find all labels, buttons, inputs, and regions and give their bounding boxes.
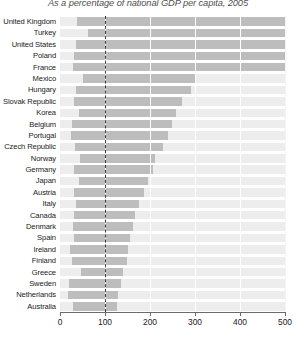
category-label: Australia [0,302,56,311]
bar [88,29,285,37]
category-label: Denmark [0,222,56,231]
x-tick-label: 0 [58,317,63,327]
x-tick-label: 300 [188,317,202,327]
bar [74,234,130,242]
bar [76,86,191,94]
bar [72,257,128,265]
category-label: Sweden [0,279,56,288]
category-label: Ireland [0,245,56,254]
category-label: Greece [0,268,56,277]
category-label: Japan [0,176,56,185]
category-label: Turkey [0,28,56,37]
category-label: Hungary [0,85,56,94]
x-axis-line [60,312,285,313]
gridline [195,16,196,312]
bar [83,74,196,82]
category-label: Mexico [0,74,56,83]
category-axis-labels: United KingdomTurkeyUnited StatesPolandF… [0,16,56,312]
bar [77,17,285,25]
bar [69,279,121,287]
category-label: Germany [0,165,56,174]
category-label: France [0,63,56,72]
bar [68,291,118,299]
gridline [240,16,241,312]
category-label: United Kingdom [0,17,56,26]
category-label: Netherlands [0,290,56,299]
bar [76,40,285,48]
bar [73,302,117,310]
category-label: Czech Republic [0,142,56,151]
bar [74,188,144,196]
category-label: Canada [0,211,56,220]
category-label: Finland [0,256,56,265]
category-label: Portugal [0,131,56,140]
gridline [150,16,151,312]
category-label: Norway [0,154,56,163]
chart-container: As a percentage of national GDP per capi… [0,0,296,342]
bar [81,268,123,276]
category-label: Korea [0,108,56,117]
x-tick-label: 200 [143,317,157,327]
bar [74,97,182,105]
x-tick-label: 400 [233,317,247,327]
bar [72,120,173,128]
category-label: United States [0,40,56,49]
chart-title: As a percentage of national GDP per capi… [0,0,296,8]
bar [71,131,168,139]
bar-rows [60,16,285,312]
category-label: Belgium [0,120,56,129]
gridline [285,16,286,312]
category-label: Italy [0,199,56,208]
category-label: Spain [0,233,56,242]
bar [79,109,176,117]
bar [73,222,133,230]
bar [74,165,153,173]
plot-area [60,16,285,312]
x-tick-label: 500 [278,317,292,327]
bar [76,200,139,208]
x-tick [285,312,286,316]
category-label: Austria [0,188,56,197]
reference-line-100 [105,16,106,312]
bar [79,177,148,185]
bar [80,154,156,162]
bar [70,245,129,253]
category-label: Poland [0,51,56,60]
category-label: Slovak Republic [0,97,56,106]
x-tick-label: 100 [98,317,112,327]
